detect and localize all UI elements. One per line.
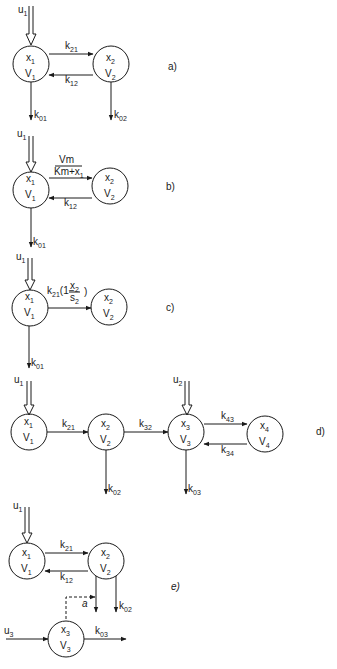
- input-arrow-icon: [22, 507, 32, 543]
- svg-text:x2: x2: [104, 292, 113, 305]
- svg-text:Vm: Vm: [59, 154, 74, 165]
- svg-text:x1: x1: [22, 547, 31, 560]
- svg-text:u1: u1: [14, 374, 24, 387]
- svg-text:k02: k02: [119, 600, 132, 613]
- svg-text:V1: V1: [24, 307, 35, 320]
- compartment-diagram: u1 x1 V1 x2 V2 k21 k12 k01 k02 a) u1 x1 …: [0, 0, 337, 669]
- input-arrow-icon: [26, 6, 36, 45]
- svg-text:k34: k34: [221, 444, 234, 457]
- svg-text:V2: V2: [100, 434, 111, 447]
- svg-text:x1: x1: [24, 416, 33, 429]
- svg-text:k03: k03: [95, 625, 108, 638]
- control-dashed-line: [66, 597, 95, 619]
- svg-text:x2: x2: [106, 52, 115, 65]
- svg-text:x2: x2: [105, 172, 114, 185]
- svg-text:V1: V1: [21, 563, 32, 576]
- panel-label-a: a): [168, 61, 177, 72]
- svg-text:k21: k21: [62, 418, 75, 431]
- svg-text:V4: V4: [259, 436, 270, 449]
- svg-text:V1: V1: [25, 68, 36, 81]
- svg-text:Km+x1: Km+x1: [54, 166, 84, 179]
- svg-text:u1: u1: [13, 500, 23, 513]
- svg-text:x4: x4: [260, 420, 269, 433]
- svg-text:V1: V1: [25, 189, 36, 202]
- svg-text:V1: V1: [23, 432, 34, 445]
- svg-text:x3: x3: [181, 418, 190, 431]
- svg-text:u2: u2: [173, 374, 183, 387]
- svg-text:V3: V3: [60, 640, 71, 653]
- svg-text:k12: k12: [60, 571, 73, 584]
- svg-text:V2: V2: [100, 563, 111, 576]
- svg-text:V2: V2: [105, 68, 116, 81]
- svg-text:k02: k02: [108, 483, 121, 496]
- panel-d: [11, 381, 283, 494]
- svg-text:k12: k12: [64, 197, 77, 210]
- svg-text:k32: k32: [139, 418, 152, 431]
- svg-text:u1: u1: [16, 251, 26, 264]
- panel-label-d: d): [316, 426, 325, 437]
- svg-text:u1: u1: [18, 4, 28, 17]
- svg-text:x2: x2: [101, 418, 110, 431]
- control-label: a: [82, 598, 88, 609]
- svg-text:k02: k02: [114, 109, 127, 122]
- svg-text:x2: x2: [101, 547, 110, 560]
- svg-text:V2: V2: [104, 188, 115, 201]
- panel-label-e: e): [171, 581, 180, 592]
- svg-text:V2: V2: [103, 308, 114, 321]
- svg-text:V3: V3: [180, 434, 191, 447]
- input-arrow-icon: [25, 258, 35, 290]
- input-arrow-icon: [182, 381, 192, 415]
- svg-text:k21: k21: [65, 40, 78, 53]
- panel-label-b: b): [166, 181, 175, 192]
- input-arrow-icon: [26, 136, 36, 172]
- svg-text:k01: k01: [33, 236, 46, 249]
- svg-text:x1: x1: [26, 173, 35, 186]
- svg-text:k21: k21: [60, 539, 73, 552]
- svg-text:s2: s2: [70, 292, 79, 305]
- svg-text:u3: u3: [4, 625, 14, 638]
- svg-text:k01: k01: [34, 109, 47, 122]
- svg-text:x1: x1: [25, 291, 34, 304]
- svg-text:k12: k12: [65, 74, 78, 87]
- svg-text:): ): [84, 286, 87, 297]
- svg-text:k03: k03: [188, 483, 201, 496]
- svg-text:k43: k43: [221, 410, 234, 423]
- svg-text:x3: x3: [61, 624, 70, 637]
- input-arrow-icon: [24, 381, 34, 415]
- svg-text:u1: u1: [17, 128, 27, 141]
- svg-text:k01: k01: [31, 357, 44, 370]
- panel-label-c: c): [166, 302, 174, 313]
- svg-text:x1: x1: [26, 52, 35, 65]
